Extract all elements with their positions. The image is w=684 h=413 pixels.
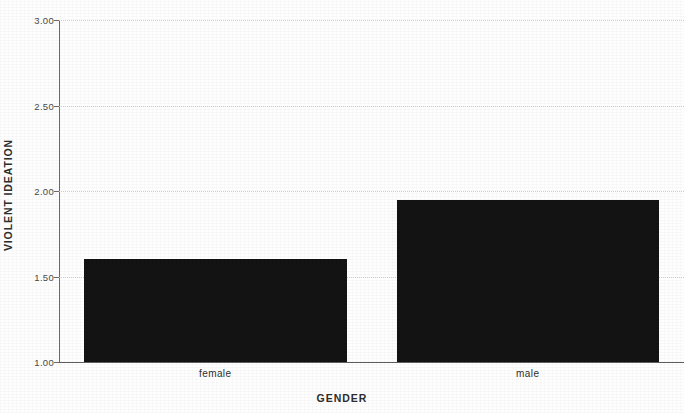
y-tick-label: 2.00 — [18, 186, 54, 197]
bar-male — [397, 200, 660, 362]
x-tick-label-male: male — [516, 368, 539, 379]
bar-female — [84, 259, 347, 362]
gridline-y-1.00 — [59, 362, 684, 363]
y-tick-label: 1.50 — [18, 271, 54, 282]
gridline-y-3.00 — [59, 20, 684, 21]
bar-chart-figure: VIOLENT IDEATION 1.001.502.002.503.00 GE… — [0, 0, 684, 413]
y-axis-tick-labels: 1.001.502.002.503.00 — [10, 0, 54, 413]
y-tick-label: 2.50 — [18, 100, 54, 111]
y-tickmark-2.50 — [54, 106, 59, 107]
x-tick-label-female: female — [199, 368, 231, 379]
y-tick-label: 3.00 — [18, 15, 54, 26]
gridline-y-2.50 — [59, 106, 684, 107]
gridline-y-2.00 — [59, 191, 684, 192]
y-tickmark-2.00 — [54, 191, 59, 192]
y-tick-label: 1.00 — [18, 357, 54, 368]
y-tickmark-1.00 — [54, 362, 59, 363]
y-tickmark-1.50 — [54, 277, 59, 278]
y-tickmark-3.00 — [54, 20, 59, 21]
x-axis-title: GENDER — [0, 392, 684, 404]
plot-area — [59, 20, 684, 362]
